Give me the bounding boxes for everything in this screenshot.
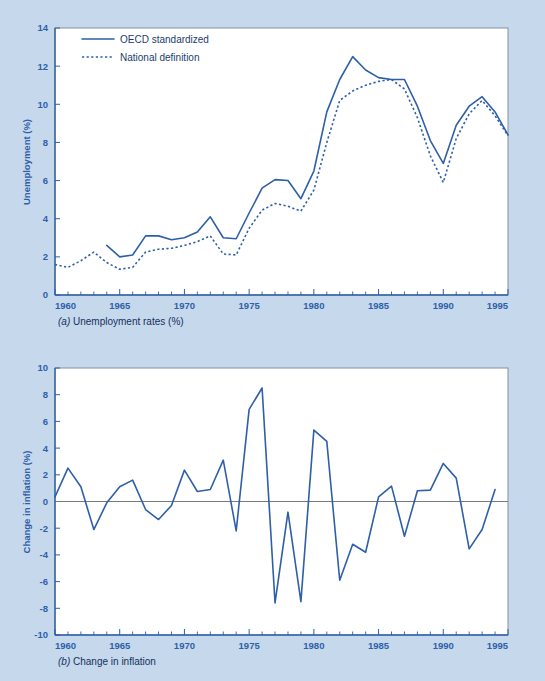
x-tick-label: 1970 [174,300,195,311]
inflation-chart-svg: -10-8-6-4-20246810 196019651970197519801… [0,340,545,681]
legend-label-oecd: OECD standardized [120,34,209,45]
y-tick-label: 10 [37,99,48,110]
y-tick-label: -4 [40,549,49,560]
caption-b-text: Change in inflation [70,656,156,667]
caption-a-prefix: (a) [58,316,70,327]
y-axis-title-b: Change in inflation (%) [21,451,32,554]
y-tick-label: 4 [43,443,49,454]
caption-a: (a) Unemployment rates (%) [58,316,184,327]
y-axis-title-a: Unemployment (%) [21,119,32,205]
y-tick-label: 8 [43,389,48,400]
caption-b-prefix: (b) [58,656,70,667]
y-tick-label: 10 [37,362,48,373]
caption-a-text: Unemployment rates (%) [70,316,183,327]
figure-container: 02468101214 1960196519701975198019851990… [0,0,545,681]
y-tick-label: -10 [34,629,48,640]
x-tick-label: 1960 [55,640,76,651]
y-tick-label: 6 [43,416,48,427]
x-tick-label: 1985 [368,300,390,311]
x-tick-label: 1975 [239,300,261,311]
x-tick-label: 1980 [303,640,324,651]
x-tick-label: 1980 [303,300,324,311]
y-tick-label: 12 [37,61,48,72]
y-tick-label: 14 [37,22,48,33]
y-tick-label: -2 [40,523,48,534]
y-tick-label: 2 [43,251,48,262]
chart-panel-inflation: -10-8-6-4-20246810 196019651970197519801… [0,340,545,681]
x-tick-label: 1995 [487,300,509,311]
y-tick-label: 4 [43,213,49,224]
caption-b: (b) Change in inflation [58,656,156,667]
x-tick-label: 1990 [433,300,454,311]
x-tick-label: 1960 [55,300,76,311]
y-tick-label: 0 [43,289,48,300]
x-tick-label: 1995 [487,640,509,651]
x-tick-label: 1965 [109,300,131,311]
x-tick-label: 1970 [174,640,195,651]
y-tick-label: 0 [43,496,48,507]
plot-area-a [55,28,508,295]
legend-label-national: National definition [120,52,200,63]
y-tick-label: -8 [40,603,48,614]
x-tick-label: 1975 [239,640,261,651]
unemployment-chart-svg: 02468101214 1960196519701975198019851990… [0,0,545,340]
chart-panel-unemployment: 02468101214 1960196519701975198019851990… [0,0,545,340]
x-tick-label: 1985 [368,640,390,651]
y-tick-label: 2 [43,469,48,480]
x-tick-label: 1965 [109,640,131,651]
y-tick-label: 6 [43,175,48,186]
y-tick-label: -6 [40,576,48,587]
x-tick-label: 1990 [433,640,454,651]
y-tick-label: 8 [43,137,48,148]
